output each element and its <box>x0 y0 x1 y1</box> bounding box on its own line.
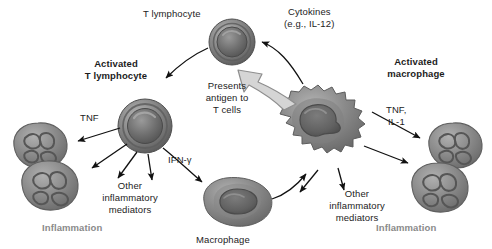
label-cytokines-line1: Cytokines <box>288 6 331 17</box>
label-other-mediators-left-line3: mediators <box>92 204 168 215</box>
label-other-mediators-left-line1: Other <box>95 180 165 191</box>
label-presents-line1: Presents <box>196 80 258 91</box>
label-inflammation-right: Inflammation <box>376 222 436 233</box>
label-activated-t-lymphocyte-line1: Activated <box>63 58 169 69</box>
arrow-right-mediators-a <box>300 170 318 192</box>
arrow-cytokines-to-t-lymphocyte <box>262 42 303 84</box>
label-presents-line2: antigen to <box>192 92 262 103</box>
label-t-lymphocyte: T lymphocyte <box>143 8 201 19</box>
label-other-mediators-right-line1: Other <box>322 188 392 199</box>
label-tnf-il1-line1: TNF, <box>386 104 406 115</box>
diagram-canvas: T lymphocyte Activated T lymphocyte Cyto… <box>0 0 492 249</box>
arrow-to-mediators-a <box>92 144 127 168</box>
t-lymphocyte-cell <box>209 19 255 65</box>
label-ifn-gamma: IFN-γ <box>168 154 192 165</box>
label-macrophage: Macrophage <box>196 234 250 245</box>
label-presents-line3: T cells <box>196 104 258 115</box>
cell-artwork-layer <box>0 0 492 249</box>
label-tnf-left: TNF <box>80 112 99 123</box>
arrow-to-mediators-b <box>118 152 137 178</box>
label-activated-t-lymphocyte-line2: T lymphocyte <box>63 70 169 81</box>
label-activated-macrophage-line2: macrophage <box>368 68 464 79</box>
label-inflammation-left: Inflammation <box>42 222 102 233</box>
macrophage-cell <box>204 178 272 227</box>
label-activated-macrophage-line1: Activated <box>368 56 464 67</box>
arrow-to-neutrophils-right-b <box>364 146 408 163</box>
label-cytokines-line2: (e.g., IL-12) <box>284 18 334 29</box>
arrow-t-lymphocyte-to-activated <box>166 48 208 78</box>
arrow-macrophage-to-activated <box>272 174 306 199</box>
label-other-mediators-left-line2: inflammatory <box>88 192 172 203</box>
neutrophils-left <box>14 123 78 210</box>
arrow-to-mediators-c <box>148 154 152 180</box>
label-tnf-il1-line2: IL-1 <box>388 116 405 127</box>
label-other-mediators-right-line2: inflammatory <box>314 200 400 211</box>
neutrophils-right <box>412 123 482 212</box>
activated-macrophage-cell <box>280 85 365 153</box>
arrow-tnf-to-neutrophils <box>78 128 120 141</box>
arrow-right-mediators-b <box>338 168 344 190</box>
